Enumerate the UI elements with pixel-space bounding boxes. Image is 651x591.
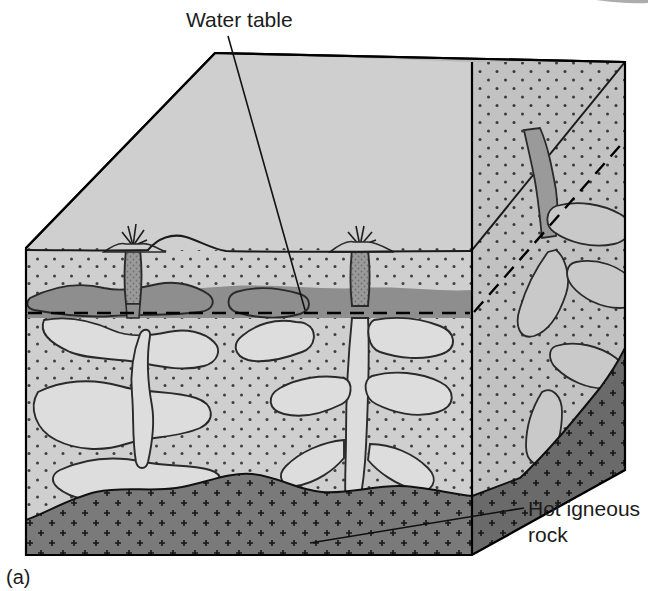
hot-igneous-label-line2: rock — [528, 523, 568, 546]
geothermal-block-diagram: Water table Hot igneous rock (a) — [0, 0, 651, 591]
hot-igneous-label-line1: Hot igneous — [528, 497, 640, 520]
water-table-label: Water table — [186, 8, 293, 31]
geyser-conduit-right — [351, 250, 370, 306]
geyser-conduit-left — [125, 250, 142, 318]
figure-caption: (a) — [6, 566, 30, 588]
